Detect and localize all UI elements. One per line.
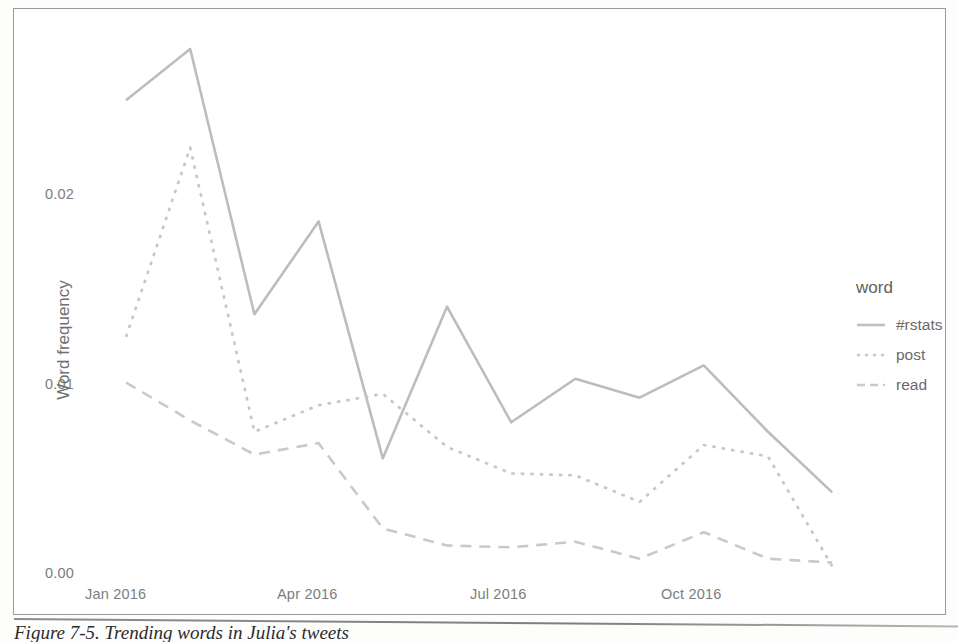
legend-key-solid-icon: [856, 318, 886, 332]
legend-item-rstats[interactable]: #rstats: [856, 310, 952, 340]
legend-item-read[interactable]: read: [856, 370, 952, 400]
legend-label-read: read: [896, 376, 927, 394]
y-axis-title: Word frequency: [54, 240, 74, 440]
line-chart: 0.00 0.01 0.02 Word frequency Jan 2016 A…: [0, 0, 958, 642]
legend-label-rstats: #rstats: [896, 316, 943, 334]
legend: word #rstats post read: [856, 278, 952, 400]
plot-canvas: [0, 0, 958, 642]
x-tick-jul: Jul 2016: [470, 586, 526, 602]
legend-key-dotted-icon: [856, 348, 886, 362]
figure-caption: Figure 7-5. Trending words in Julia's tw…: [14, 622, 958, 642]
y-tick-0: 0.00: [10, 565, 74, 581]
legend-label-post: post: [896, 346, 925, 364]
x-tick-jan: Jan 2016: [85, 586, 146, 602]
series-line-rstats: [126, 49, 832, 492]
x-tick-oct: Oct 2016: [661, 586, 721, 602]
series-line-post: [126, 148, 832, 567]
x-tick-apr: Apr 2016: [277, 586, 337, 602]
scanned-page: 0.00 0.01 0.02 Word frequency Jan 2016 A…: [0, 0, 958, 642]
series-line-read: [126, 383, 832, 563]
y-tick-2: 0.02: [10, 186, 74, 202]
legend-title: word: [856, 278, 952, 298]
legend-item-post[interactable]: post: [856, 340, 952, 370]
legend-key-dashed-icon: [856, 378, 886, 392]
